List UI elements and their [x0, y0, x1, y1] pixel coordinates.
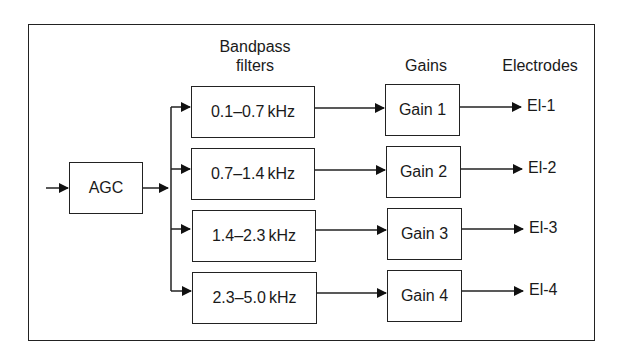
gain-label: Gain 3 — [401, 225, 448, 243]
filter-label: 0.7–1.4 kHz — [211, 165, 295, 183]
electrodes-header: Electrodes — [490, 56, 590, 75]
bandpass-filter-1: 0.1–0.7 kHz — [191, 86, 315, 138]
gain-label: Gain 4 — [401, 287, 448, 305]
bandpass-filters-header: Bandpass filters — [200, 37, 310, 75]
gain-block-2: Gain 2 — [386, 146, 461, 198]
bandpass-header-line2: filters — [200, 56, 310, 75]
filter-label: 1.4–2.3 kHz — [212, 227, 296, 245]
bandpass-filter-4: 2.3–5.0 kHz — [192, 272, 317, 324]
bandpass-filter-3: 1.4–2.3 kHz — [192, 210, 316, 262]
gain-label: Gain 2 — [400, 163, 447, 181]
electrode-label-2: El-2 — [528, 159, 556, 177]
agc-label: AGC — [89, 179, 124, 197]
gain-label: Gain 1 — [399, 101, 446, 119]
agc-block: AGC — [69, 162, 143, 214]
filter-label: 0.1–0.7 kHz — [211, 103, 295, 121]
electrode-label-1: El-1 — [527, 97, 555, 115]
bandpass-filter-2: 0.7–1.4 kHz — [191, 148, 315, 200]
filter-label: 2.3–5.0 kHz — [212, 289, 296, 307]
gain-block-1: Gain 1 — [385, 84, 460, 136]
gain-block-3: Gain 3 — [387, 208, 462, 260]
gain-block-4: Gain 4 — [387, 270, 462, 322]
gains-header: Gains — [388, 56, 464, 75]
electrode-label-3: El-3 — [529, 219, 557, 237]
bandpass-header-line1: Bandpass — [200, 37, 310, 56]
electrode-label-4: El-4 — [529, 281, 557, 299]
